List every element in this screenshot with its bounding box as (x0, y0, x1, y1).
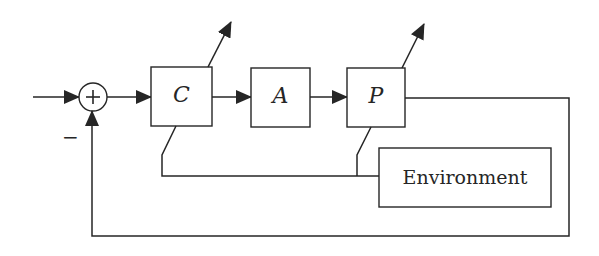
block-diagram-canvas (0, 0, 599, 256)
block-a-label: A (251, 83, 310, 108)
adaptive-arrow-p-icon (402, 24, 424, 68)
block-environment-label: Environment (379, 166, 551, 188)
feedback-sign: − (62, 125, 79, 149)
env-link-c (162, 126, 379, 176)
block-c-label: C (151, 82, 212, 107)
adaptive-arrow-c-icon (208, 22, 231, 67)
summing-junction (79, 83, 107, 111)
block-p-label: P (347, 83, 405, 108)
env-link-p (357, 127, 371, 176)
